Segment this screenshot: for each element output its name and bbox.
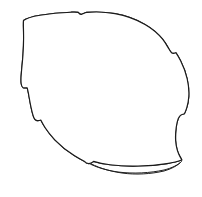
leaf-illustration-figure: Black and white stippled botanical line … — [0, 0, 202, 197]
leaf-drawing-canvas: Black and white stippled botanical line … — [0, 0, 202, 197]
